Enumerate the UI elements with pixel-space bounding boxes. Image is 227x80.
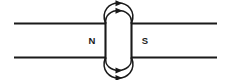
bottom-inner-arrowhead-icon [116,68,123,74]
top-inner-arc [106,11,132,24]
field-line-drawing: N S [0,0,227,80]
top-outer-arrowhead-icon [116,0,123,6]
top-inner-arrowhead-icon [116,8,123,14]
magnetic-field-diagram: N S [0,0,227,80]
south-pole-label: S [142,35,148,46]
north-pole-label: N [89,35,96,46]
bottom-inner-arc [106,58,132,71]
